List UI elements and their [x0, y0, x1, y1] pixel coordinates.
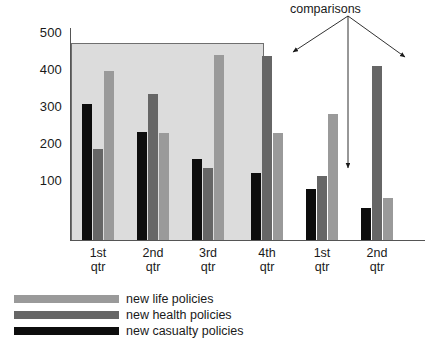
x-tick-label: 2ndqtr: [123, 246, 183, 274]
x-tick-line1: 3rd: [199, 246, 217, 260]
x-tick-line2: qtr: [68, 260, 128, 274]
y-tick-300: 300: [22, 100, 62, 113]
y-tick-100: 100: [22, 174, 62, 187]
bar-life: [104, 71, 114, 240]
bar-casualty: [82, 104, 92, 240]
bar-health: [372, 66, 382, 240]
x-tick-label: 4thqtr: [237, 246, 297, 274]
bar-life: [273, 133, 283, 240]
x-tick-label: 3rdqtr: [178, 246, 238, 274]
bar-casualty: [192, 159, 202, 240]
annotation-label: comparisons: [290, 2, 361, 16]
y-tick-400: 400: [22, 63, 62, 76]
x-tick-line2: qtr: [347, 260, 407, 274]
y-tick-200: 200: [22, 137, 62, 150]
y-tick-500: 500: [22, 26, 62, 39]
x-tick-label: 1stqtr: [68, 246, 128, 274]
bar-health: [203, 168, 213, 240]
bar-life: [214, 55, 224, 240]
bar-group: [192, 28, 234, 240]
legend-item: new health policies: [14, 309, 274, 323]
bar-health: [317, 176, 327, 240]
bar-health: [148, 94, 158, 240]
x-tick-line2: qtr: [292, 260, 352, 274]
x-tick-line1: 1st: [314, 246, 331, 260]
x-tick-label: 1stqtr: [292, 246, 352, 274]
bar-life: [328, 114, 338, 240]
x-tick-line1: 1st: [90, 246, 107, 260]
bar-casualty: [361, 208, 371, 240]
legend-item: new life policies: [14, 293, 274, 307]
legend-label: new casualty policies: [126, 324, 243, 338]
plot-area: [70, 28, 425, 240]
legend-swatch-health: [14, 311, 119, 319]
bar-casualty: [306, 189, 316, 240]
bar-group: [361, 28, 403, 240]
bar-group: [251, 28, 293, 240]
x-tick-line2: qtr: [123, 260, 183, 274]
bar-group: [137, 28, 179, 240]
x-tick-line1: 2nd: [143, 246, 164, 260]
legend-label: new health policies: [126, 308, 232, 322]
bar-chart-figure: 500 400 300 200 100 1stqtr2ndqtr3rdqtr4t…: [0, 0, 435, 340]
x-tick-line2: qtr: [237, 260, 297, 274]
legend: new life policiesnew health policiesnew …: [14, 293, 274, 340]
legend-swatch-casualty: [14, 327, 119, 335]
bar-group: [306, 28, 348, 240]
bar-life: [159, 133, 169, 240]
x-tick-label: 2ndqtr: [347, 246, 407, 274]
legend-item: new casualty policies: [14, 325, 274, 339]
x-tick-line1: 2nd: [367, 246, 388, 260]
x-tick-line1: 4th: [258, 246, 275, 260]
bar-life: [383, 198, 393, 240]
x-axis-line: [70, 240, 425, 241]
bar-casualty: [251, 173, 261, 240]
bar-group: [82, 28, 124, 240]
bar-health: [93, 149, 103, 240]
bar-health: [262, 56, 272, 240]
x-tick-line2: qtr: [178, 260, 238, 274]
bar-casualty: [137, 132, 147, 240]
legend-swatch-life: [14, 295, 119, 303]
legend-label: new life policies: [126, 292, 214, 306]
